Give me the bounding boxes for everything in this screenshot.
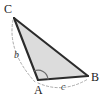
side-length-label-b: b — [14, 50, 19, 60]
vertex-label-c: C — [4, 3, 12, 15]
vertex-label-a: A — [34, 84, 43, 96]
geometry-figure: C A B b c — [0, 0, 103, 100]
side-length-label-c: c — [61, 82, 65, 92]
vertex-label-b: B — [91, 71, 99, 83]
